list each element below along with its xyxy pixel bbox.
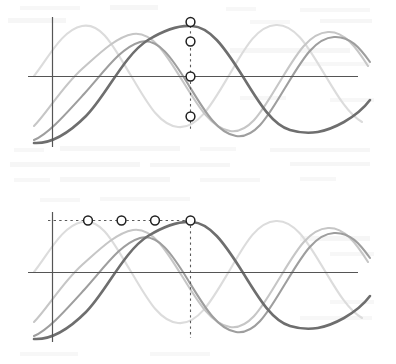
top-panel: [28, 17, 370, 147]
marker-3: [186, 72, 195, 81]
marker-1: [84, 216, 93, 225]
top-panel-curves: [34, 25, 370, 143]
curve-snapshot-3: [34, 233, 370, 336]
marker-3: [151, 216, 160, 225]
bottom-panel: [28, 212, 370, 342]
marker-4: [186, 112, 195, 121]
wave-figure: [0, 0, 396, 364]
marker-2: [186, 37, 195, 46]
bottom-panel-curves: [34, 221, 370, 339]
marker-1: [186, 18, 195, 27]
marker-4: [186, 216, 195, 225]
bleed-through-artifacts: [8, 5, 374, 356]
figure-canvas: [0, 0, 396, 364]
marker-2: [117, 216, 126, 225]
